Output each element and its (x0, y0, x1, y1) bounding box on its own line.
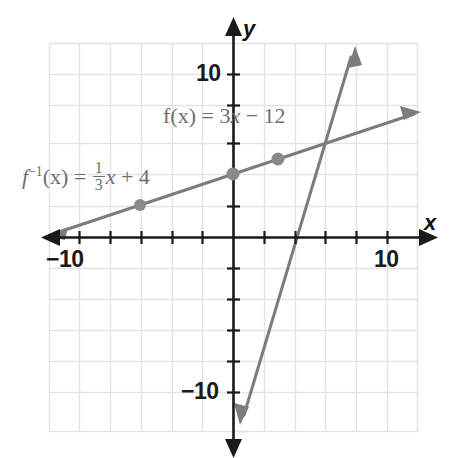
data-point (227, 168, 240, 181)
y-tick-label-10: 10 (196, 62, 221, 85)
coordinate-plane-figure: 10 −10 −10 10 y x f(x) = 3x − 12 f−1(x) … (0, 0, 456, 458)
data-point (134, 199, 146, 211)
fraction-numerator: 1 (93, 160, 105, 176)
graph-canvas (0, 0, 456, 458)
f-inverse-exponent: −1 (28, 164, 43, 179)
y-axis-label: y (243, 18, 255, 40)
f-equation-variable: x (230, 103, 240, 128)
one-third-fraction: 13 (93, 160, 105, 194)
y-axis-bottom-arrow (225, 439, 242, 458)
f-equation-suffix: − 12 (240, 103, 285, 128)
f-inverse-tail: + 4 (115, 164, 149, 189)
data-point (272, 153, 285, 166)
f-equation-label: f(x) = 3x − 12 (163, 105, 286, 127)
x-axis-left-arrow (41, 229, 60, 246)
axes (52, 28, 427, 448)
x-tick-label-neg10: −10 (46, 248, 84, 271)
y-tick-label-neg10: −10 (181, 380, 219, 403)
x-axis-label: x (424, 212, 436, 234)
f-inverse-equation-label: f−1(x) = 13x + 4 (22, 160, 150, 194)
y-axis-top-arrow (225, 17, 242, 36)
f-inverse-argument: (x) = (43, 164, 92, 189)
f-equation-prefix: f(x) = 3 (163, 103, 230, 128)
x-tick-label-10: 10 (374, 248, 399, 271)
f-inverse-variable: x (106, 164, 116, 189)
fraction-denominator: 3 (93, 176, 105, 193)
